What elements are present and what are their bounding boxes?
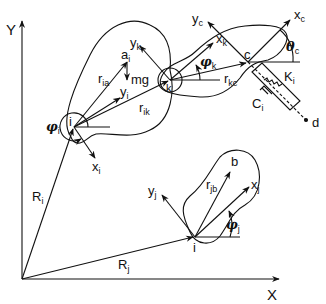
label-point-j: i <box>193 241 196 254</box>
label-mg: mg <box>131 73 149 86</box>
label-point-d: d <box>312 116 319 129</box>
label-phi-i: φi <box>46 120 60 136</box>
y-axis-label: Y <box>6 22 16 37</box>
axis-yj <box>162 195 195 237</box>
label-Ci: Ci <box>252 97 263 113</box>
label-xj: xj <box>251 178 260 194</box>
label-yc: yc <box>192 12 203 28</box>
axis-xi <box>74 127 95 158</box>
label-yi: yi <box>120 85 129 101</box>
body-i-outline <box>67 21 172 143</box>
label-yk: yk <box>130 36 141 52</box>
label-Ri: Ri <box>32 190 43 206</box>
label-xc: xc <box>294 8 305 24</box>
label-point-b: b <box>231 155 238 168</box>
point-d <box>305 119 308 122</box>
label-xk: xk <box>216 32 227 48</box>
multibody-diagram: Y X Ri Rj i k i c ai b d mg ria rik rkc … <box>0 0 326 304</box>
label-yj: yj <box>148 184 157 200</box>
label-point-i: i <box>69 115 72 128</box>
label-xi: xi <box>92 160 101 176</box>
diagram-canvas <box>0 0 326 304</box>
label-point-c: c <box>244 48 251 61</box>
vector-Ri <box>22 129 73 279</box>
label-rjb: rjb <box>206 178 217 194</box>
spring-Ki <box>264 78 282 86</box>
label-ria: ria <box>98 72 109 88</box>
label-point-a: ai <box>121 48 130 64</box>
vector-Rj <box>22 237 193 279</box>
label-point-k: k <box>166 83 172 94</box>
x-axis-label: X <box>267 287 277 302</box>
label-rik: rik <box>139 101 150 117</box>
label-theta-c: θc <box>286 40 299 56</box>
body-j-outline <box>183 150 259 243</box>
axis-xj <box>195 187 249 237</box>
axis-yi <box>74 98 120 127</box>
label-phi-j: φj <box>226 218 240 234</box>
label-Ki: Ki <box>284 70 295 86</box>
label-phi-k: φk <box>200 55 216 71</box>
axis-xc <box>248 20 290 62</box>
label-Rj: Rj <box>118 258 129 274</box>
label-rkc: rkc <box>224 72 237 88</box>
